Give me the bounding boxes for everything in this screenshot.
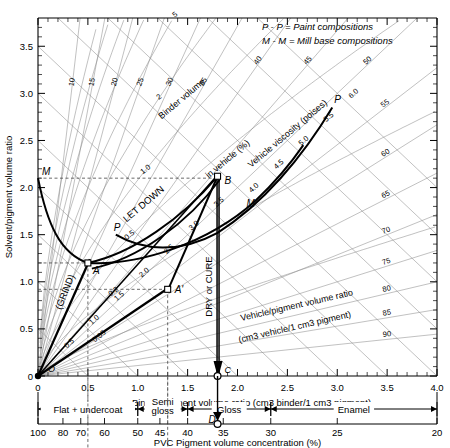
binder-volume-label-90: 90 bbox=[382, 329, 391, 339]
pvc-tick-label-25: 25 bbox=[332, 427, 343, 438]
point-marker-Ap bbox=[165, 286, 171, 292]
y-tick-label-4: 2.0 bbox=[20, 182, 33, 193]
band-enamel-label: Enamel bbox=[338, 404, 370, 415]
y-tick-label-1: 0.5 bbox=[20, 323, 33, 334]
x-tick-label-2: 1.0 bbox=[131, 382, 144, 393]
pvc-tick-label-50: 50 bbox=[132, 427, 143, 438]
x-tick-label-0: 0 bbox=[35, 382, 40, 393]
point-label-D: D bbox=[209, 414, 216, 425]
point-label-C: C bbox=[225, 365, 232, 375]
pvc-axis-label: PVC Pigment volume concentration (%) bbox=[154, 437, 321, 448]
point-label-O: O bbox=[48, 364, 55, 374]
y-tick-label-3: 1.5 bbox=[20, 229, 33, 240]
point-label-B: B bbox=[225, 175, 232, 186]
y-tick-label-0: 0 bbox=[28, 371, 33, 382]
point-label-Mp: M bbox=[246, 198, 255, 209]
y-tick-label-2: 1.0 bbox=[20, 276, 33, 287]
legend-paint: P - P = Paint compositions bbox=[262, 21, 373, 32]
y-tick-label-5: 2.5 bbox=[20, 135, 33, 146]
point-label-P: P bbox=[114, 222, 121, 233]
y-tick-label-7: 3.5 bbox=[20, 41, 33, 52]
binder-volume-label-15: 15 bbox=[87, 77, 97, 87]
binder-volume-label-10: 10 bbox=[67, 77, 77, 86]
y-axis-label: Solvent/pigment volume ratio bbox=[3, 136, 14, 259]
x-tick-label-7: 3.5 bbox=[381, 382, 394, 393]
pvc-tick-label-20: 20 bbox=[432, 427, 443, 438]
y-tick-label-6: 3.0 bbox=[20, 88, 33, 99]
pvc-tick-label-70: 70 bbox=[75, 427, 86, 438]
point-label-M: M bbox=[42, 166, 51, 177]
paint-nomograph-chart: 0.51.01.52.02.53.03.54.04.55.05.56.01015… bbox=[0, 0, 450, 448]
x-tick-label-6: 3.0 bbox=[331, 382, 344, 393]
x-tick-label-3: 1.5 bbox=[181, 382, 194, 393]
point-marker-O bbox=[35, 373, 41, 379]
process-label-dry-cure: DRY or CURE bbox=[203, 256, 214, 316]
point-marker-A bbox=[85, 260, 91, 266]
pvc-tick-label-100: 100 bbox=[30, 427, 46, 438]
legend-millbase: M - M = Mill base compositions bbox=[262, 35, 393, 46]
band-semi-gloss-label-2: gloss bbox=[152, 405, 174, 416]
x-tick-label-5: 2.5 bbox=[281, 382, 294, 393]
x-tick-label-8: 4.0 bbox=[430, 382, 443, 393]
pvc-tick-label-80: 80 bbox=[58, 427, 69, 438]
pvc-tick-label-60: 60 bbox=[99, 427, 110, 438]
point-label-Ap: A' bbox=[174, 284, 185, 295]
chart-canvas: 0.51.01.52.02.53.03.54.04.55.05.56.01015… bbox=[0, 0, 450, 448]
point-label-A: A bbox=[92, 265, 100, 276]
x-tick-label-4: 2.0 bbox=[231, 382, 244, 393]
binder-volume-label-85: 85 bbox=[382, 308, 392, 318]
point-label-Pp: P bbox=[334, 94, 341, 105]
